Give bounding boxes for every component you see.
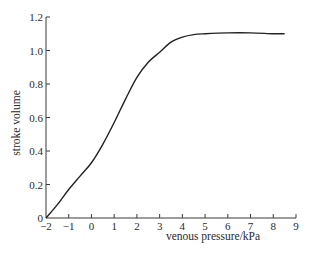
x-tick-label: 3 — [157, 220, 163, 232]
stroke-volume-chart: −2−10123456789 00.20.40.60.81.01.2 venou… — [0, 0, 313, 255]
data-line — [46, 33, 285, 218]
axes — [46, 17, 296, 218]
x-tick-label: 2 — [134, 220, 140, 232]
x-tick-label: 0 — [89, 220, 95, 232]
y-tick-label: 0.2 — [29, 179, 43, 191]
y-tick-label: 0.6 — [29, 112, 43, 124]
x-tick-label: 9 — [293, 220, 299, 232]
y-tick-label: 1.0 — [29, 45, 43, 57]
x-axis-label: venous pressure/kPa — [166, 230, 260, 243]
x-tick-label: 1 — [111, 220, 117, 232]
x-tick-label: −1 — [63, 220, 75, 232]
y-ticks: 00.20.40.60.81.01.2 — [29, 11, 50, 224]
y-tick-label: 1.2 — [29, 11, 43, 23]
y-tick-label: 0 — [38, 212, 44, 224]
x-tick-label: 8 — [271, 220, 277, 232]
y-tick-label: 0.8 — [29, 78, 43, 90]
y-axis-label: stroke volume — [10, 90, 22, 155]
y-tick-label: 0.4 — [29, 145, 43, 157]
